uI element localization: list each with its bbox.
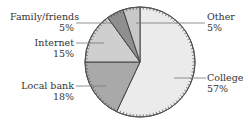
label-family-friends: Family/friends 5% — [10, 11, 74, 33]
label-local-bank-name: Local bank — [10, 80, 74, 91]
label-internet-pct: 15% — [10, 48, 74, 59]
label-local-bank-pct: 18% — [10, 91, 74, 102]
label-college-name: College — [207, 72, 243, 83]
label-other-pct: 5% — [207, 22, 235, 33]
label-internet: Internet 15% — [10, 37, 74, 59]
label-internet-name: Internet — [10, 37, 74, 48]
label-college: College 57% — [207, 72, 243, 94]
label-college-pct: 57% — [207, 83, 243, 94]
label-local-bank: Local bank 18% — [10, 80, 74, 102]
pie-slices — [85, 7, 195, 117]
label-other: Other 5% — [207, 11, 235, 33]
label-family-pct: 5% — [10, 22, 74, 33]
label-other-name: Other — [207, 11, 235, 22]
label-family-name: Family/friends — [10, 11, 74, 22]
